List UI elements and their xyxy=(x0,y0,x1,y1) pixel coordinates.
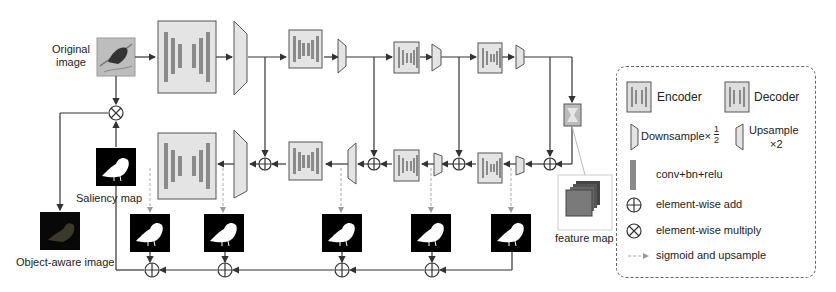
side-output-maps xyxy=(130,214,531,252)
legend-upsample-label: Upsample xyxy=(749,124,799,136)
decoder-1 xyxy=(158,133,216,199)
object-aware-image-label: Object-aware image xyxy=(16,256,114,268)
add-icon xyxy=(218,263,232,277)
saliency-map-label: Saliency map xyxy=(76,192,142,204)
add-icon xyxy=(544,158,556,170)
legend-decoder-label: Decoder xyxy=(754,90,799,104)
bottleneck-block xyxy=(564,104,581,126)
object-aware-image xyxy=(40,212,80,250)
feature-map-label: feature map xyxy=(555,232,614,244)
encoder-3 xyxy=(394,42,419,73)
legend-sigmoid-label: sigmoid and upsample xyxy=(656,249,766,261)
add-icon xyxy=(335,263,349,277)
decoder-blocks xyxy=(158,133,502,199)
legend-multiply-label: element-wise multiply xyxy=(656,224,761,236)
legend-downsample-label: Downsample× xyxy=(641,130,711,142)
fraction-denominator: 2 xyxy=(714,135,719,145)
original-image-label-line1: Original xyxy=(52,43,90,56)
encoder-4 xyxy=(478,43,502,73)
add-icon xyxy=(425,263,439,277)
decoder-2 xyxy=(289,142,322,180)
add-icon xyxy=(368,158,380,170)
fraction-numerator: 1 xyxy=(714,124,719,135)
decoder-4 xyxy=(478,153,502,183)
add-icon xyxy=(259,158,271,170)
legend-conv-label: conv+bn+relu xyxy=(656,168,723,180)
decoder-3 xyxy=(394,150,419,181)
legend-downsample-fraction: 1 2 xyxy=(714,124,719,145)
original-image xyxy=(97,38,135,76)
original-image-label-line2: image xyxy=(52,56,90,69)
side-map-2 xyxy=(204,214,244,252)
legend-encoder-label: Encoder xyxy=(657,90,702,104)
encoder-2 xyxy=(289,30,322,68)
original-image-label: Original image xyxy=(52,43,90,69)
encoder-1 xyxy=(158,21,216,93)
add-icon xyxy=(145,263,159,277)
encoder-blocks xyxy=(158,21,581,126)
side-map-3 xyxy=(322,214,362,252)
legend-add-label: element-wise add xyxy=(656,198,742,210)
add-icon xyxy=(453,158,465,170)
multiply-icon xyxy=(109,106,123,120)
saliency-map xyxy=(96,148,136,186)
side-map-5 xyxy=(491,214,531,252)
legend-upsample-factor: ×2 xyxy=(770,138,783,150)
feature-map xyxy=(558,126,612,230)
side-map-1 xyxy=(130,214,170,252)
side-map-4 xyxy=(411,214,451,252)
